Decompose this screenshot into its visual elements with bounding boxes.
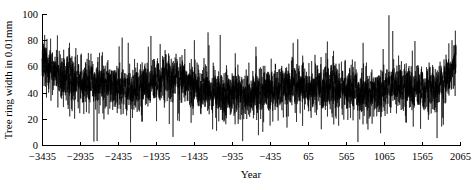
y-tick-label: 20: [28, 114, 39, 125]
x-axis-title: Year: [241, 168, 262, 180]
y-tick-label: 100: [22, 9, 38, 20]
y-tick-label: 0: [33, 140, 38, 151]
x-tick-label: −935: [222, 151, 244, 162]
x-tick-label: −2935: [67, 151, 94, 162]
x-tick-label: 2065: [450, 151, 471, 162]
x-tick-label: 1065: [374, 151, 395, 162]
x-tick-label: −2435: [105, 151, 132, 162]
x-tick-label: −3435: [29, 151, 56, 162]
x-tick-label: −435: [260, 151, 282, 162]
x-tick-label: 65: [303, 151, 314, 162]
x-tick-label: −1935: [143, 151, 170, 162]
y-tick-label: 80: [28, 35, 39, 46]
x-tick-label: 565: [339, 151, 355, 162]
y-tick-label: 40: [28, 88, 39, 99]
chart-figure: 020406080100 −3435−2935−2435−1935−1435−9…: [0, 0, 473, 190]
x-tick-label: 1565: [412, 151, 433, 162]
tree-ring-width-line-chart: 020406080100 −3435−2935−2435−1935−1435−9…: [0, 0, 473, 190]
x-tick-label: −1435: [181, 151, 208, 162]
y-tick-label: 60: [28, 61, 39, 72]
y-axis-title: Tree ring width in 0.01mm: [2, 20, 14, 139]
